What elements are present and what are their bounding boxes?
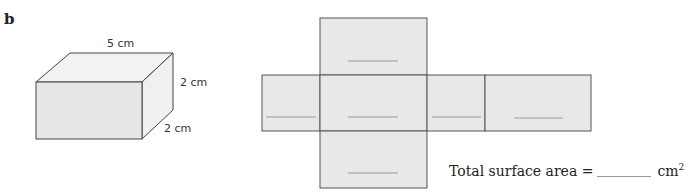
tsa-unit: cm — [657, 163, 678, 179]
net-face-right — [427, 75, 485, 131]
total-surface-area-line: Total surface area =cm2 — [449, 162, 684, 179]
net-face-bottom — [320, 131, 427, 188]
net-face-front — [320, 75, 427, 131]
tsa-answer-blank[interactable] — [597, 166, 651, 177]
tsa-prefix: Total surface area = — [449, 163, 593, 179]
net-face-left — [262, 75, 320, 131]
net-face-back — [485, 75, 591, 131]
cuboid-drawing — [36, 53, 173, 139]
height-label: 2 cm — [180, 76, 207, 89]
depth-label: 2 cm — [164, 122, 191, 135]
net-face-top — [320, 18, 427, 75]
tsa-unit-exponent: 2 — [679, 162, 685, 172]
length-label: 5 cm — [107, 37, 134, 50]
